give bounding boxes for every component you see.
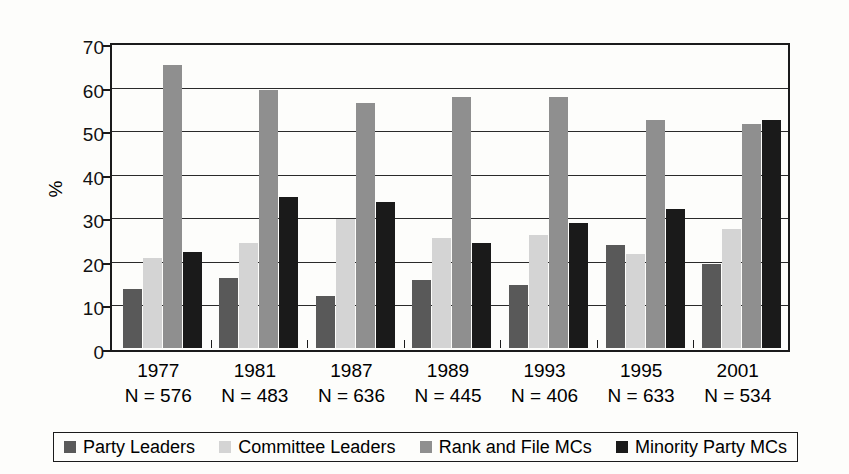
y-tick-mark: [103, 306, 110, 308]
y-tick-mark: [103, 132, 110, 134]
y-tick-mark: [103, 45, 110, 47]
bar-group: [693, 47, 790, 348]
bar: [722, 229, 741, 348]
bar: [762, 120, 781, 348]
y-tick-mark: [103, 263, 110, 265]
y-tick-mark: [103, 176, 110, 178]
bar: [606, 245, 625, 348]
bar-group: [500, 47, 597, 348]
bar: [259, 90, 278, 348]
y-tick-label: 10: [60, 299, 104, 318]
x-tick-mark: [597, 340, 598, 348]
bar: [432, 238, 451, 348]
bar: [219, 278, 238, 348]
y-tick-mark: [103, 350, 110, 352]
bar: [549, 97, 568, 348]
y-tick-label: 40: [60, 169, 104, 188]
legend-swatch-icon: [64, 441, 76, 453]
x-tick-mark: [693, 340, 694, 348]
bar-series-container: [114, 47, 786, 348]
legend-label: Rank and File MCs: [439, 437, 592, 458]
y-tick-label: 30: [60, 212, 104, 231]
bar: [472, 243, 491, 348]
y-tick-label: 20: [60, 256, 104, 275]
bar: [239, 243, 258, 348]
x-tick-year: 2001: [678, 358, 798, 383]
bar: [123, 289, 142, 348]
y-tick-label: 60: [60, 82, 104, 101]
y-tick-label: 50: [60, 125, 104, 144]
bar: [163, 65, 182, 348]
bar: [336, 219, 355, 348]
bar: [316, 296, 335, 348]
x-tick-mark: [404, 340, 405, 348]
x-tick-mark: [211, 340, 212, 348]
bar: [666, 209, 685, 348]
bar: [702, 264, 721, 348]
bar: [509, 285, 528, 348]
legend-label: Party Leaders: [83, 437, 195, 458]
legend-swatch-icon: [420, 441, 432, 453]
bar-group: [597, 47, 694, 348]
bar: [529, 235, 548, 348]
x-tick-mark: [307, 340, 308, 348]
x-tick-mark: [500, 340, 501, 348]
legend-label: Minority Party MCs: [635, 437, 787, 458]
legend-item[interactable]: Minority Party MCs: [616, 437, 787, 458]
legend-swatch-icon: [219, 441, 231, 453]
bar: [376, 202, 395, 348]
chart-legend: Party LeadersCommittee LeadersRank and F…: [53, 432, 798, 462]
legend-swatch-icon: [616, 441, 628, 453]
bar: [279, 197, 298, 348]
y-tick-mark: [103, 219, 110, 221]
bar: [183, 252, 202, 348]
x-axis-tick-labels: 1977N = 5761981N = 4831987N = 6361989N =…: [110, 358, 790, 412]
y-tick-label: 70: [60, 38, 104, 57]
legend-item[interactable]: Committee Leaders: [219, 437, 395, 458]
bar: [143, 258, 162, 348]
x-tick-label: 2001N = 534: [678, 358, 798, 408]
legend-item[interactable]: Party Leaders: [64, 437, 195, 458]
legend-item[interactable]: Rank and File MCs: [420, 437, 592, 458]
bar: [742, 124, 761, 348]
plot-area: [110, 43, 790, 352]
bar: [626, 254, 645, 348]
bar: [452, 97, 471, 348]
bar: [412, 280, 431, 348]
x-tick-sample-size: N = 534: [678, 383, 798, 408]
bar-group: [404, 47, 501, 348]
y-tick-mark: [103, 89, 110, 91]
bar-group: [307, 47, 404, 348]
y-axis-tick-labels: 010203040506070: [52, 43, 104, 352]
bar-group: [211, 47, 308, 348]
chart-figure: % 010203040506070 1977N = 5761981N = 483…: [0, 0, 849, 474]
bar: [356, 103, 375, 348]
legend-label: Committee Leaders: [238, 437, 395, 458]
bar: [646, 120, 665, 348]
bar-group: [114, 47, 211, 348]
bar: [569, 223, 588, 348]
